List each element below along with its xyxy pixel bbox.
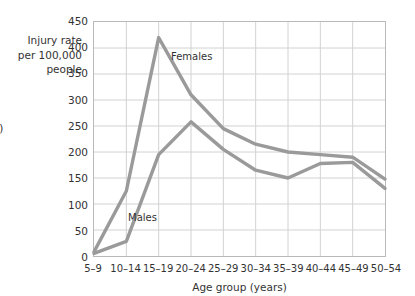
y-tick-label: 250: [52, 121, 88, 131]
series-label-females: Females: [171, 51, 212, 62]
y-tick-label: 200: [52, 147, 88, 157]
y-tick-label: 350: [52, 68, 88, 78]
x-axis-title: Age group (years): [93, 281, 386, 293]
series-label-males: Males: [128, 212, 157, 223]
y-tick-label: 50: [52, 226, 88, 236]
y-tick-label: 450: [52, 16, 88, 26]
y-tick-label: 150: [52, 173, 88, 183]
y-tick-label: 0: [52, 252, 88, 262]
caption-fragment: .): [0, 121, 3, 135]
injury-rate-line-chart: Injury rate per 100,000 people .) 050100…: [0, 0, 415, 296]
x-tick-label: 50–54: [364, 263, 408, 274]
y-tick-label: 400: [52, 42, 88, 52]
y-tick-label: 300: [52, 95, 88, 105]
y-tick-label: 100: [52, 200, 88, 210]
